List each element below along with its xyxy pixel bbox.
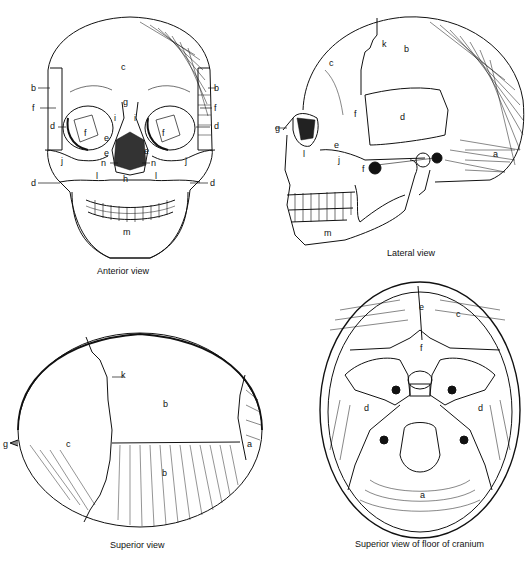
label-f-orbit-right: f <box>162 129 165 138</box>
label-d-right: d <box>214 122 219 131</box>
label-l-left: l <box>96 172 98 181</box>
caption-superior-view: Superior view <box>110 540 165 550</box>
label-f-lower: f <box>362 165 365 174</box>
label-c: c <box>329 59 334 68</box>
anterior-view-panel: c b b f f g d d i i f f e e e j j n n l … <box>0 0 265 290</box>
label-e-right: e <box>144 147 149 156</box>
label-g: g <box>275 124 280 133</box>
lateral-view-panel: k b c f d g e l j f a m Lateral view <box>265 0 531 290</box>
label-g: g <box>123 98 128 107</box>
label-b-right: b <box>214 84 219 93</box>
label-i-right: i <box>134 114 136 123</box>
label-j-right: j <box>185 157 187 166</box>
label-m: m <box>123 228 131 237</box>
anterior-skull-drawing <box>0 0 265 290</box>
label-g: g <box>3 440 8 449</box>
label-e: e <box>419 303 424 312</box>
lateral-skull-drawing <box>265 0 531 290</box>
label-f-right: f <box>214 104 217 113</box>
label-j-left: j <box>61 157 63 166</box>
label-k: k <box>382 40 387 49</box>
label-f: f <box>354 110 357 119</box>
label-a: a <box>247 440 252 449</box>
label-d-right: d <box>478 404 483 413</box>
label-n-left: n <box>101 159 106 168</box>
label-b: b <box>404 45 409 54</box>
label-n-right: n <box>151 159 156 168</box>
label-f-left: f <box>32 104 35 113</box>
label-k: k <box>121 371 126 380</box>
superior-skull-drawing <box>0 300 270 562</box>
label-d-left: d <box>364 404 369 413</box>
superior-view-panel: k b c g a b Superior view <box>0 300 270 562</box>
label-l-right: l <box>155 172 157 181</box>
label-a: a <box>420 491 425 500</box>
label-c: c <box>66 440 71 449</box>
label-j: j <box>338 156 340 165</box>
label-e: e <box>334 141 339 150</box>
label-b-bottom: b <box>162 469 167 478</box>
label-c: c <box>121 63 126 72</box>
label-d-left: d <box>50 122 55 131</box>
caption-floor-of-cranium: Superior view of floor of cranium <box>355 539 484 549</box>
floor-of-cranium-panel: e c f d d a Superior view of floor of cr… <box>300 280 531 562</box>
label-d: d <box>400 113 405 122</box>
label-f-orbit-left: f <box>84 129 87 138</box>
label-b-left: b <box>31 84 36 93</box>
label-d-low-left: d <box>31 179 36 188</box>
label-m: m <box>324 229 332 238</box>
label-e-orbit: e <box>104 134 109 143</box>
label-b-top: b <box>163 400 168 409</box>
caption-lateral-view: Lateral view <box>387 248 435 258</box>
cranial-floor-drawing <box>300 280 531 562</box>
label-h: h <box>123 175 128 184</box>
caption-anterior-view: Anterior view <box>97 266 149 276</box>
label-a: a <box>493 150 498 159</box>
label-f: f <box>420 344 423 353</box>
label-e-left: e <box>104 149 109 158</box>
label-d-low-right: d <box>210 179 215 188</box>
label-i-left: i <box>114 114 116 123</box>
label-c: c <box>456 310 461 319</box>
label-l: l <box>303 150 305 159</box>
